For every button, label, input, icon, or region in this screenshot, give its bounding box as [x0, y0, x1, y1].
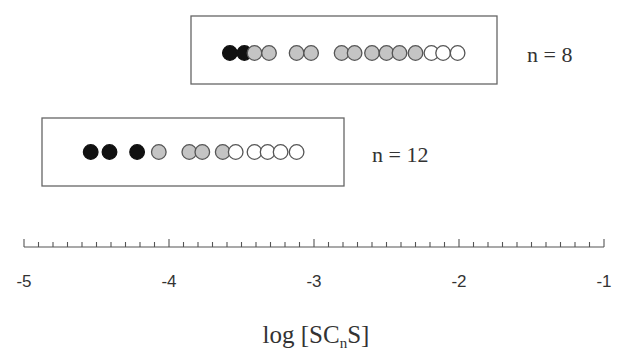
x-tick-label: -2: [451, 272, 466, 291]
x-tick-label: -4: [161, 272, 176, 291]
x-tick-label: -3: [306, 272, 321, 291]
data-point-white: [247, 145, 262, 160]
data-point-gray: [262, 46, 277, 61]
x-tick-label: -5: [16, 272, 31, 291]
data-point-white: [289, 145, 304, 160]
data-point-black: [83, 145, 98, 160]
data-point-white: [228, 145, 243, 160]
data-point-gray: [247, 46, 262, 61]
series-label: n = 8: [527, 42, 572, 67]
x-axis-label-pre: log [SC: [263, 321, 340, 348]
data-point-black: [130, 145, 145, 160]
x-axis-label-post: S]: [347, 321, 369, 348]
data-point-gray: [304, 46, 319, 61]
series-boxes: [42, 16, 497, 186]
data-point-white: [436, 46, 451, 61]
data-point-gray: [347, 46, 362, 61]
data-point-gray: [289, 46, 304, 61]
data-point-gray: [365, 46, 380, 61]
data-point-gray: [408, 46, 423, 61]
scatter-chart: n = 8n = 12 -5-4-3-2-1 log [SCnS]: [0, 0, 632, 364]
series-label: n = 12: [372, 142, 428, 167]
x-axis-label: log [SCnS]: [263, 321, 370, 351]
data-point-white: [273, 145, 288, 160]
data-point-white: [450, 46, 465, 61]
data-point-gray: [152, 145, 167, 160]
x-axis: -5-4-3-2-1: [16, 239, 611, 291]
data-point-gray: [195, 145, 210, 160]
data-point-gray: [392, 46, 407, 61]
data-point-black: [102, 145, 117, 160]
series-labels: n = 8n = 12: [372, 42, 572, 167]
x-tick-label: -1: [596, 272, 611, 291]
data-point-black: [223, 46, 238, 61]
